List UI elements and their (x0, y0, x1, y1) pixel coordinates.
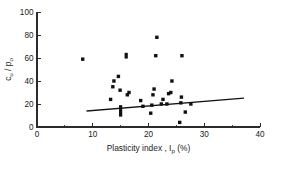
y-tick-label: 100 (20, 8, 34, 17)
y-tick-label: 60 (24, 54, 34, 63)
x-tick-label: 10 (88, 130, 98, 139)
data-point (81, 57, 84, 60)
axes (37, 12, 260, 127)
data-point (151, 93, 154, 96)
x-tick-label: 40 (255, 130, 265, 139)
data-points (81, 36, 193, 125)
data-point (149, 112, 152, 115)
y-tick-label: 40 (24, 77, 34, 86)
data-point (127, 91, 130, 94)
y-tick-label: 20 (24, 100, 34, 109)
data-point (170, 79, 173, 82)
x-tick-label: 0 (35, 130, 40, 139)
data-point (117, 75, 120, 78)
data-point (154, 54, 157, 57)
y-tick-label: 80 (24, 31, 34, 40)
y-axis-title: cu / po (3, 58, 14, 81)
x-axis-title: Plasticity index , Ip (%) (107, 143, 191, 154)
y-tick-label: 0 (29, 123, 34, 132)
data-point (139, 99, 142, 102)
data-point-bar (119, 105, 122, 117)
axis-ticks (37, 12, 260, 127)
axis-tick-labels: 020406080100010203040 (20, 8, 265, 139)
x-tick-label: 30 (200, 130, 210, 139)
data-point (152, 87, 155, 90)
data-point-bar (125, 53, 128, 59)
data-point (178, 121, 181, 124)
data-point (118, 89, 121, 92)
data-point (161, 98, 164, 101)
data-point (180, 54, 183, 57)
data-point (109, 98, 112, 101)
chart-figure: 020406080100010203040 Plasticity index ,… (0, 0, 281, 173)
data-point (180, 95, 183, 98)
axis-spines (37, 12, 260, 127)
data-point (169, 91, 172, 94)
scatter-plot: 020406080100010203040 Plasticity index ,… (0, 0, 281, 173)
data-point (112, 79, 115, 82)
x-tick-label: 20 (144, 130, 154, 139)
data-point (111, 85, 114, 88)
data-point (184, 110, 187, 113)
data-point (155, 36, 158, 39)
